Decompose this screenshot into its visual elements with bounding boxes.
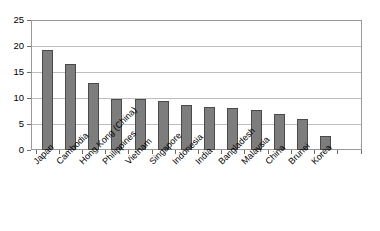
bar-chart: 25 20 15 10 5 0 bbox=[0, 0, 380, 231]
x-label-korea: Korea bbox=[310, 143, 333, 166]
x-label-india: India bbox=[194, 146, 214, 166]
x-label-china: China bbox=[264, 143, 287, 166]
x-axis-labels: Japan Cambodia Hong Kong (China) Philipp… bbox=[0, 0, 380, 231]
x-label-japan: Japan bbox=[32, 143, 56, 167]
x-label-brunei: Brunei bbox=[287, 142, 312, 167]
